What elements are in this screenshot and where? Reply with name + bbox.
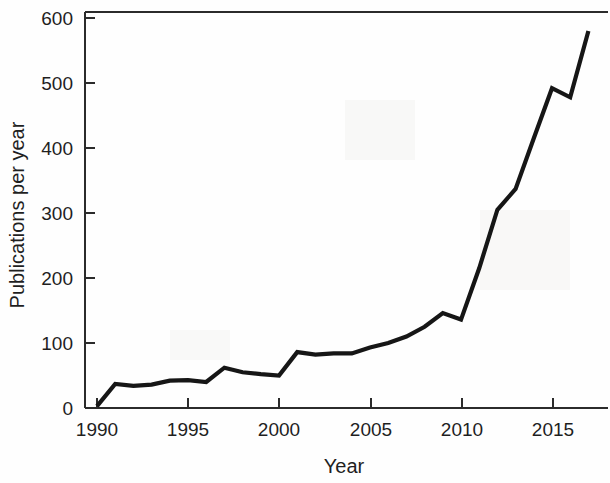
y-tick-label: 300 xyxy=(41,203,73,224)
plot-frame xyxy=(85,12,608,408)
y-tick-labels: 0 100 200 300 400 500 600 xyxy=(41,8,73,419)
line-chart: 0 100 200 300 400 500 600 1990 1995 2000… xyxy=(0,0,610,483)
x-tick-label: 1995 xyxy=(167,419,209,440)
y-tick-label: 400 xyxy=(41,138,73,159)
y-axis-ticks xyxy=(85,18,95,408)
data-series-line xyxy=(97,31,588,406)
y-axis-title: Publications per year xyxy=(6,121,28,308)
y-tick-label: 200 xyxy=(41,268,73,289)
figure-container: 0 100 200 300 400 500 600 1990 1995 2000… xyxy=(0,0,610,483)
x-tick-label: 2010 xyxy=(441,419,483,440)
y-tick-label: 500 xyxy=(41,73,73,94)
x-tick-label: 1990 xyxy=(76,419,118,440)
x-axis-title: Year xyxy=(324,455,365,477)
x-axis-ticks xyxy=(97,398,553,408)
x-tick-label: 2005 xyxy=(350,419,392,440)
x-tick-label: 2015 xyxy=(532,419,574,440)
y-tick-label: 100 xyxy=(41,333,73,354)
y-tick-label: 600 xyxy=(41,8,73,29)
x-tick-labels: 1990 1995 2000 2005 2010 2015 xyxy=(76,419,574,440)
y-tick-label: 0 xyxy=(62,398,73,419)
x-tick-label: 2000 xyxy=(258,419,300,440)
